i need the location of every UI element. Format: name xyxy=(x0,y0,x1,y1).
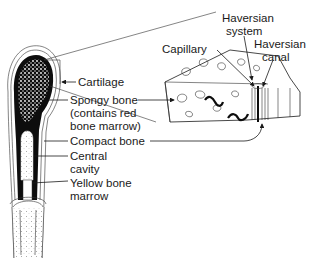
label-compact-bone: Compact bone xyxy=(70,135,145,147)
long-bone-diagram: Cartilage Spongy bone (contains red bone… xyxy=(0,0,310,261)
label-capillary: Capillary xyxy=(162,43,207,55)
label-haversian-canal: Haversian xyxy=(254,38,306,50)
label-yellow-marrow: Yellow bone xyxy=(70,177,132,189)
capillary-vessel-1 xyxy=(205,97,223,106)
label-spongy-bone-line3: bone marrow) xyxy=(70,120,141,132)
label-central-cavity-line2: cavity xyxy=(70,163,100,175)
label-haversian-canal-line2: canal xyxy=(262,51,290,63)
long-bone xyxy=(8,46,61,258)
label-spongy-bone-line2: (contains red xyxy=(70,107,136,119)
leader-capillary xyxy=(217,50,254,86)
leader-haversian-canal xyxy=(263,60,273,86)
label-haversian-system: Haversian xyxy=(222,12,274,24)
label-yellow-marrow-line2: marrow xyxy=(70,190,109,202)
central-cavity xyxy=(21,131,33,180)
label-haversian-system-line2: system xyxy=(226,25,262,37)
cut-ring-2 xyxy=(13,201,43,207)
leader-compact-bone-right xyxy=(150,124,262,141)
leader-haversian-system xyxy=(244,36,252,80)
bone-shaft-lower xyxy=(12,207,44,258)
spongy-bone xyxy=(18,59,49,122)
label-spongy-bone: Spongy bone xyxy=(70,94,138,106)
label-cartilage: Cartilage xyxy=(78,76,124,88)
capillary-vessel-2 xyxy=(228,114,248,120)
label-central-cavity: Central xyxy=(70,150,107,162)
